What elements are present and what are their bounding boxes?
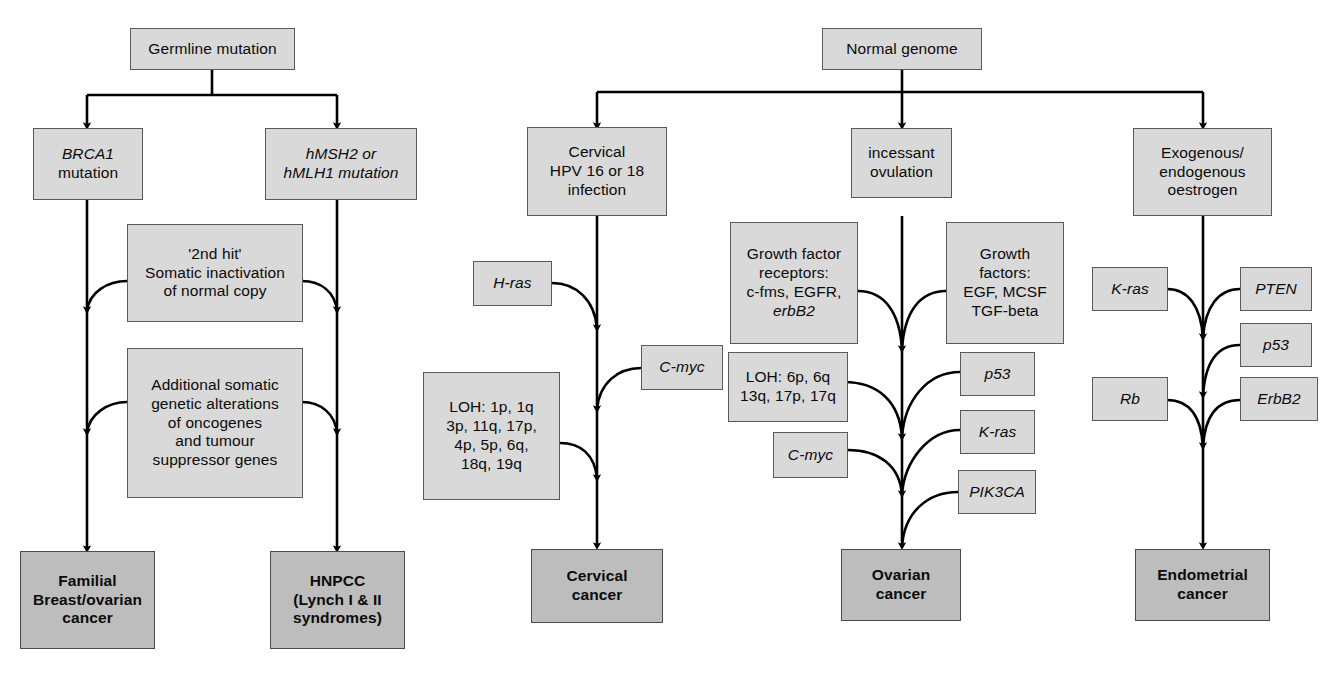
node-label-line2: (Lynch I & II [293,591,382,610]
node-ovarian-k-ras[interactable]: K-ras [960,410,1035,454]
node-label-line1: Cervical [569,143,626,162]
node-label-line3: oestrogen [1168,181,1238,200]
node-incessant-ovulation[interactable]: incessant ovulation [851,128,952,198]
node-cervical-c-myc[interactable]: C-myc [641,345,723,390]
node-label-line5: suppressor genes [153,451,278,470]
node-label-line1: Cervical [566,567,627,586]
node-label-line2: cancer [1177,585,1228,604]
node-label-line2: 13q, 17p, 17q [740,387,836,406]
node-endometrial-p53[interactable]: p53 [1240,323,1312,367]
node-ovarian-p53[interactable]: p53 [960,352,1035,396]
node-outcome-endometrial-cancer[interactable]: Endometrial cancer [1135,549,1270,621]
node-label: PIK3CA [969,483,1025,502]
node-label-line1: Endometrial [1157,566,1248,585]
node-label: H-ras [493,274,531,293]
node-label-line4: TGF-beta [971,302,1038,321]
node-label: p53 [1263,336,1289,355]
node-label-line2: mutation [58,164,118,183]
node-label-line1: BRCA1 [62,145,114,164]
node-label-line4: 18q, 19q [461,455,522,474]
node-endometrial-k-ras[interactable]: K-ras [1092,267,1168,311]
node-label-line3: c-fms, EGFR, [746,283,841,302]
node-label-line3: 4p, 5p, 6q, [454,436,528,455]
node-ovarian-loh[interactable]: LOH: 6p, 6q 13q, 17p, 17q [728,352,848,422]
node-label-line1: LOH: 1p, 1q [449,398,534,417]
node-label: C-myc [659,358,704,377]
node-label-line3: of normal copy [163,282,266,301]
node-label: K-ras [1111,280,1149,299]
node-label: Rb [1120,390,1140,409]
node-label-line3: cancer [62,609,113,628]
node-label: Germline mutation [148,40,276,59]
node-label-line2: hMLH1 mutation [283,164,398,183]
node-label-line3: infection [568,181,627,200]
node-ovarian-c-myc[interactable]: C-myc [773,432,848,478]
node-label-line2: Breast/ovarian [33,591,142,610]
node-outcome-cervical-cancer[interactable]: Cervical cancer [531,549,663,623]
node-label-line1: Exogenous/ [1161,144,1244,163]
node-additional-somatic-alterations[interactable]: Additional somatic genetic alterations o… [127,348,303,498]
connector-layer [0,0,1333,687]
node-label: p53 [984,365,1010,384]
node-endometrial-pten[interactable]: PTEN [1240,267,1312,311]
node-endometrial-rb[interactable]: Rb [1092,377,1168,421]
node-label-line1: hMSH2 or [306,145,377,164]
node-exogenous-endogenous-oestrogen[interactable]: Exogenous/ endogenous oestrogen [1133,128,1272,216]
node-label-line2: cancer [572,586,623,605]
node-label-line3: EGF, MCSF [963,283,1047,302]
node-outcome-ovarian-cancer[interactable]: Ovarian cancer [841,549,961,621]
node-label-line2: HPV 16 or 18 [550,162,644,181]
node-label: K-ras [979,423,1017,442]
node-hmsh2-hmlh1-mutation[interactable]: hMSH2 or hMLH1 mutation [265,128,417,200]
node-label-line1: Familial [58,572,117,591]
node-label-line2: genetic alterations [151,395,279,414]
node-growth-factors[interactable]: Growth factors: EGF, MCSF TGF-beta [946,222,1064,344]
node-germline-mutation[interactable]: Germline mutation [130,28,295,70]
node-label-line4: erbB2 [773,302,815,321]
node-label: PTEN [1255,280,1297,299]
node-label-line1: Growth factor [747,245,841,264]
node-outcome-hnpcc[interactable]: HNPCC (Lynch I & II syndromes) [270,551,405,649]
node-growth-factor-receptors[interactable]: Growth factor receptors: c-fms, EGFR, er… [730,222,858,344]
node-label-line2: factors: [979,264,1031,283]
node-label-line2: Somatic inactivation [145,264,285,283]
node-label-line4: and tumour [175,432,254,451]
node-label: ErbB2 [1257,390,1301,409]
node-cervical-loh[interactable]: LOH: 1p, 1q 3p, 11q, 17p, 4p, 5p, 6q, 18… [423,372,560,500]
diagram-canvas: Germline mutation Normal genome BRCA1 mu… [0,0,1333,687]
node-second-hit[interactable]: '2nd hit' Somatic inactivation of normal… [127,224,303,322]
node-h-ras[interactable]: H-ras [473,261,552,306]
node-label-line2: cancer [876,585,927,604]
node-label-line1: LOH: 6p, 6q [746,368,831,387]
node-brca1-mutation[interactable]: BRCA1 mutation [33,128,143,200]
node-cervical-hpv-infection[interactable]: Cervical HPV 16 or 18 infection [527,127,667,216]
node-label: Normal genome [846,40,958,59]
node-label-line2: 3p, 11q, 17p, [446,417,537,436]
node-label-line3: of oncogenes [168,414,262,433]
node-label-line2: ovulation [870,163,933,182]
node-label-line1: Additional somatic [151,376,279,395]
node-outcome-familial-breast-ovarian-cancer[interactable]: Familial Breast/ovarian cancer [20,551,155,649]
node-endometrial-erbb2[interactable]: ErbB2 [1240,377,1318,421]
node-normal-genome[interactable]: Normal genome [822,28,982,70]
node-label: C-myc [788,446,833,465]
node-label-line1: HNPCC [310,572,366,591]
node-label-line1: Growth [980,245,1031,264]
node-label-line1: Ovarian [872,566,930,585]
node-ovarian-pik3ca[interactable]: PIK3CA [958,470,1036,514]
node-label-line1: '2nd hit' [188,245,241,264]
node-label-line1: incessant [868,144,934,163]
node-label-line3: syndromes) [293,609,382,628]
node-label-line2: receptors: [759,264,829,283]
node-label-line2: endogenous [1159,163,1245,182]
